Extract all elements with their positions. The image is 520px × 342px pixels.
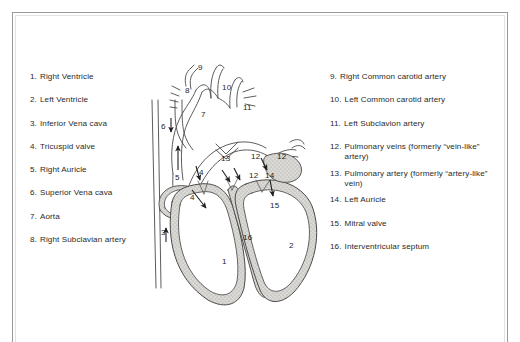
legend-label: Left Common carotid artery [345, 95, 505, 105]
callout-7: 7 [201, 110, 206, 119]
callout-8: 8 [185, 86, 190, 95]
heart-diagram-svg [130, 38, 340, 318]
callout-9: 9 [198, 63, 203, 72]
legend-label: Left Auricle [345, 195, 505, 205]
legend-item: 14. Left Auricle [330, 195, 505, 205]
arrow-pulmonary-outflow [234, 168, 240, 180]
callout-11: 11 [243, 103, 252, 112]
left-common-carotid-artery [211, 65, 224, 98]
callout-3: 3 [161, 228, 166, 237]
callout-14: 14 [265, 171, 274, 180]
legend-number: 3. [30, 119, 37, 129]
callout-6: 6 [161, 122, 166, 131]
legend-number: 5. [30, 165, 37, 175]
callout-12c: 12 [249, 171, 258, 180]
legend-item: 9. Right Common carotid artery [330, 72, 505, 82]
legend-item: 15. Mitral valve [330, 219, 505, 229]
page-root: 1. Right Ventricle 2. Left Ventricle 3. … [0, 0, 520, 342]
legend-number: 8. [30, 235, 37, 245]
heart-diagram: 1 2 3 4 4 5 6 7 8 9 10 11 12 12 12 13 14… [130, 38, 340, 318]
legend-number: 2. [30, 95, 37, 105]
legend-number: 6. [30, 188, 37, 198]
callout-10: 10 [222, 83, 231, 92]
legend-item: 12. Pulmonary veins (formerly “vein-like… [330, 142, 505, 162]
legend-number: 1. [30, 72, 37, 82]
callout-12a: 12 [251, 152, 260, 161]
legend-label: Pulmonary artery (formerly “artery-like”… [345, 169, 505, 189]
callout-5: 5 [175, 173, 180, 182]
legend-number: 4. [30, 142, 37, 152]
legend-item: 13. Pulmonary artery (formerly “artery-l… [330, 169, 505, 189]
callout-15: 15 [270, 201, 279, 210]
callout-2: 2 [289, 241, 294, 250]
callout-4a: 4 [199, 168, 204, 177]
callout-4b: 4 [190, 193, 195, 202]
right-subclavian-and-carotid [170, 65, 198, 108]
legend-label: Left Subclavion artery [344, 119, 505, 129]
vena-cava-vertical-vessel [152, 100, 161, 288]
legend-label: Right Common carotid artery [340, 72, 505, 82]
callout-12b: 12 [277, 152, 286, 161]
legend-item: 10. Left Common carotid artery [330, 95, 505, 105]
legend-item: 11. Left Subclavion artery [330, 119, 505, 129]
legend-label: Mitral valve [345, 219, 505, 229]
legend-column-right: 9. Right Common carotid artery 10. Left … [330, 72, 505, 265]
legend-label: Pulmonary veins (formerly “vein-like” ar… [345, 142, 505, 162]
callout-16: 16 [243, 233, 252, 242]
arrow-pulmonary-artery [222, 170, 230, 182]
legend-label: Interventricular septum [345, 242, 505, 252]
callout-13: 13 [221, 154, 230, 163]
callout-1: 1 [222, 257, 227, 266]
superior-vena-cava [175, 100, 193, 150]
legend-number: 7. [30, 212, 37, 222]
legend-item: 16. Interventricular septum [330, 242, 505, 252]
